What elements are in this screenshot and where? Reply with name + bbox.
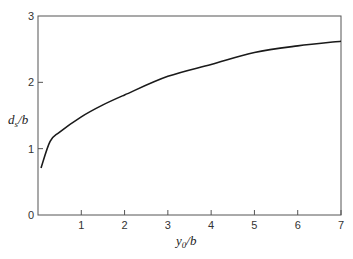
- x-axis-label: y0/b: [174, 233, 197, 250]
- y-tick-label: 2: [28, 76, 34, 88]
- y-axis-ticks: 0123: [28, 10, 43, 221]
- x-tick-label: 1: [78, 219, 84, 231]
- chart: 1234567 0123 ds/b y0/b: [0, 0, 353, 259]
- x-tick-label: 7: [338, 219, 344, 231]
- x-tick-label: 2: [122, 219, 128, 231]
- y-tick-label: 3: [28, 10, 34, 22]
- y-tick-label: 0: [28, 209, 34, 221]
- x-axis-ticks: 1234567: [78, 210, 344, 231]
- y-tick-label: 1: [28, 143, 34, 155]
- data-curve: [41, 41, 341, 168]
- x-tick-label: 3: [165, 219, 171, 231]
- x-tick-label: 6: [295, 219, 301, 231]
- x-tick-label: 4: [208, 219, 214, 231]
- x-tick-label: 5: [251, 219, 257, 231]
- y-axis-label: ds/b: [8, 112, 29, 129]
